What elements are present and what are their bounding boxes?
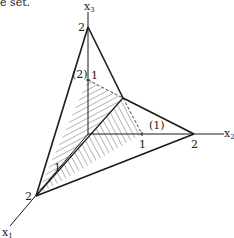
feasible-region-diagram: x3 x2 x1 2 1 1 2 2 1 (1) (2) xyxy=(0,0,234,238)
constraint-1-label: (1) xyxy=(149,119,165,132)
x1-tick-1: 1 xyxy=(54,161,61,174)
x2-axis-label: x2 xyxy=(224,127,234,141)
x3-tick-1: 1 xyxy=(91,69,98,82)
x1-axis-label: x1 xyxy=(2,226,13,238)
x3-tick-2: 2 xyxy=(78,21,85,34)
x1-tick-2: 2 xyxy=(25,190,32,203)
x2-tick-2: 2 xyxy=(191,138,198,151)
x2-tick-1: 1 xyxy=(139,138,146,151)
x3-axis-label: x3 xyxy=(84,0,95,14)
constraint-2-label: (2) xyxy=(72,68,88,81)
